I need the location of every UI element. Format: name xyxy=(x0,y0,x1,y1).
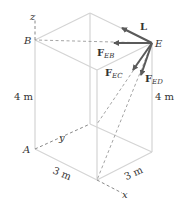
force-L-label: L xyxy=(140,21,147,32)
force-ED-label: FED xyxy=(145,73,163,86)
height-right-label: 4 m xyxy=(155,91,175,102)
box-edges xyxy=(35,13,152,180)
force-EB-label: FEB xyxy=(97,47,114,60)
y-axis-label: y xyxy=(58,132,65,143)
arrow-L xyxy=(122,28,152,43)
width-left-label: 3 m xyxy=(51,165,73,183)
height-left-label: 4 m xyxy=(14,91,34,102)
point-B-label: B xyxy=(23,35,31,46)
z-axis-label: z xyxy=(29,11,36,22)
cable-lines xyxy=(35,40,152,180)
point-A-label: A xyxy=(22,144,30,155)
x-axis xyxy=(97,180,122,193)
force-EC-label: FEC xyxy=(105,67,123,80)
width-right-label: 3 m xyxy=(122,164,144,182)
force-arrows xyxy=(114,28,152,75)
point-E-label: E xyxy=(154,38,163,49)
box-diagram: z B E A y x 4 m 4 m 3 m 3 m L FEB FEC FE… xyxy=(0,0,183,209)
x-axis-label: x xyxy=(122,189,128,200)
